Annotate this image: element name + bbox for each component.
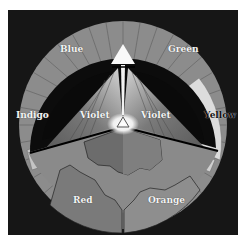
label-blue: Blue (60, 44, 83, 54)
label-violet-right: Violet (141, 110, 171, 120)
label-violet-left: Violet (80, 110, 110, 120)
label-indigo: Indigo (16, 110, 49, 120)
label-green: Green (168, 44, 198, 54)
color-wheel (0, 0, 248, 246)
label-yellow: Yellow (204, 110, 236, 120)
label-orange: Orange (148, 195, 185, 205)
label-red: Red (73, 195, 93, 205)
